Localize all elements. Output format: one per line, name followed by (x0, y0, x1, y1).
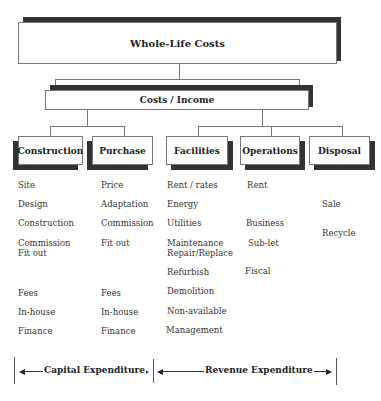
revenue-end-bar (336, 358, 337, 385)
capital-expenditure-label: Capital Expenditure (43, 365, 146, 376)
connector-construction-down (50, 126, 51, 136)
category-operations-label: Operations (242, 146, 298, 156)
disposal-item: Sale (322, 199, 341, 210)
operations-item: Sub-let (248, 238, 279, 249)
construction-item: Site (18, 180, 35, 191)
category-construction: Construction (18, 136, 83, 165)
connector-disposal-down (342, 126, 343, 136)
revenue-arrow-right-icon (326, 369, 332, 375)
construction-item: Design (18, 199, 48, 210)
root-label: Whole-Life Costs (130, 38, 225, 49)
operations-item: Rent (247, 180, 267, 191)
capital-start-bar (14, 357, 15, 384)
connector-facilities-down (198, 126, 199, 136)
category-operations: Operations (240, 136, 300, 165)
purchase-item: Adaptation (101, 199, 148, 210)
purchase-item: Fit out (101, 238, 130, 249)
purchase-item: Finance (101, 326, 135, 337)
connector-left-group-h (50, 126, 125, 127)
connector-purchase-down (124, 126, 125, 136)
connector-right-group-down (262, 110, 263, 126)
purchase-item: Fees (101, 288, 121, 299)
level2-label: Costs / Income (140, 95, 215, 105)
construction-item: In-house (18, 307, 55, 318)
purchase-item: In-house (101, 307, 138, 318)
capital-arrow-left-icon (19, 369, 25, 375)
disposal-item: Recycle (322, 228, 356, 239)
connector-level2-bracket-h (55, 79, 300, 80)
operations-item: Business (246, 218, 284, 229)
connector-left-group-down (87, 110, 88, 126)
facilities-item: Repair/Replace (167, 248, 233, 259)
construction-item: Fees (18, 288, 38, 299)
category-facilities: Facilities (166, 136, 228, 165)
facilities-item: Energy (167, 199, 198, 210)
category-purchase: Purchase (92, 136, 153, 165)
construction-item: Construction (18, 218, 74, 229)
facilities-item: Non-available (167, 306, 227, 317)
level2-node-costs-income: Costs / Income (45, 90, 309, 110)
capital-revenue-divider-bar (153, 359, 154, 383)
facilities-item: Demolition (167, 286, 214, 297)
connector-operations-down (271, 126, 272, 136)
category-construction-label: Construction (18, 146, 84, 156)
root-node-whole-life-costs: Whole-Life Costs (18, 22, 337, 64)
revenue-arrow-left-icon (157, 369, 163, 375)
category-disposal: Disposal (309, 136, 370, 165)
category-disposal-label: Disposal (318, 146, 361, 156)
category-purchase-label: Purchase (99, 146, 146, 156)
construction-item: Fit out (18, 248, 47, 259)
operations-item: Fiscal (245, 266, 271, 277)
facilities-item: Refurbish (167, 267, 209, 278)
facilities-item: Management (166, 325, 223, 336)
facilities-item: Rent / rates (167, 180, 218, 191)
connector-root-down (179, 64, 180, 80)
purchase-item: Commission (101, 218, 154, 229)
purchase-item: Price (101, 180, 123, 191)
revenue-expenditure-label: Revenue Expenditure (204, 365, 314, 376)
construction-item: Finance (18, 326, 52, 337)
category-facilities-label: Facilities (174, 146, 220, 156)
facilities-item: Utilities (167, 218, 201, 229)
